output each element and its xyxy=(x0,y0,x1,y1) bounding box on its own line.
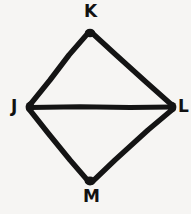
edge-jl-diagonal xyxy=(30,107,172,108)
geometry-figure: K J L M xyxy=(0,0,191,214)
vertex-node-l xyxy=(168,102,177,112)
vertex-node-m xyxy=(85,177,96,186)
vertex-node-k xyxy=(85,29,95,37)
vertex-node-j xyxy=(26,102,35,113)
vertex-label-l: L xyxy=(178,98,189,115)
figure-canvas xyxy=(0,0,191,214)
vertex-label-j: J xyxy=(11,98,17,115)
vertex-label-m: M xyxy=(83,188,100,205)
vertex-label-k: K xyxy=(84,3,97,20)
